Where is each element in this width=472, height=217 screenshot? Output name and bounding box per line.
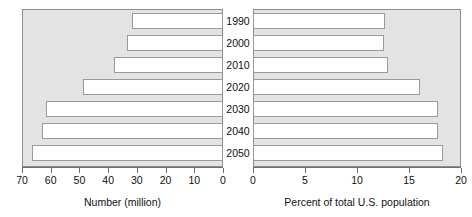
left-x-axis-title: Number (million) <box>22 196 223 208</box>
year-label-2010: 2010 <box>223 54 253 76</box>
bar-left-2010 <box>114 57 223 73</box>
bar-right-1990 <box>253 13 385 29</box>
year-label-1990: 1990 <box>223 10 253 32</box>
left-x-axis-line <box>22 167 223 168</box>
tick-label-10: 10 <box>179 174 209 186</box>
bar-right-2050 <box>253 145 443 161</box>
tick-label-15: 15 <box>394 174 424 186</box>
bar-left-2050 <box>32 145 223 161</box>
tick-label-10: 10 <box>342 174 372 186</box>
tick-label-0: 0 <box>208 174 238 186</box>
bar-right-2020 <box>253 79 420 95</box>
tick-mark <box>305 168 306 173</box>
year-label-2030: 2030 <box>223 98 253 120</box>
year-label-2000: 2000 <box>223 32 253 54</box>
tick-label-40: 40 <box>93 174 123 186</box>
year-label-2050: 2050 <box>223 142 253 164</box>
tick-label-20: 20 <box>151 174 181 186</box>
year-label-2040: 2040 <box>223 120 253 142</box>
tick-mark <box>253 168 254 173</box>
bar-right-2030 <box>253 101 438 117</box>
tick-label-20: 20 <box>446 174 472 186</box>
tick-label-5: 5 <box>290 174 320 186</box>
tick-label-70: 70 <box>7 174 37 186</box>
year-axis-labels: 1990200020102020203020402050 <box>223 9 253 167</box>
tick-mark <box>461 168 462 173</box>
bar-left-2020 <box>83 79 223 95</box>
tick-mark <box>79 168 80 173</box>
tick-mark <box>137 168 138 173</box>
tick-label-60: 60 <box>36 174 66 186</box>
bar-left-2040 <box>42 123 223 139</box>
right-x-axis-title: Percent of total U.S. population <box>253 196 461 208</box>
tick-mark <box>223 168 224 173</box>
tick-mark <box>108 168 109 173</box>
tick-mark <box>409 168 410 173</box>
year-label-2020: 2020 <box>223 76 253 98</box>
bar-right-2000 <box>253 35 384 51</box>
tick-mark <box>22 168 23 173</box>
bar-left-2000 <box>127 35 223 51</box>
tick-mark <box>166 168 167 173</box>
bar-right-2010 <box>253 57 388 73</box>
bar-left-2030 <box>46 101 223 117</box>
bar-left-1990 <box>132 13 223 29</box>
tick-label-50: 50 <box>64 174 94 186</box>
tick-label-0: 0 <box>238 174 268 186</box>
tick-mark <box>194 168 195 173</box>
tick-mark <box>357 168 358 173</box>
bar-right-2040 <box>253 123 438 139</box>
tick-label-30: 30 <box>122 174 152 186</box>
tick-mark <box>51 168 52 173</box>
bar-chart: 1990200020102020203020402050 70605040302… <box>0 0 472 217</box>
